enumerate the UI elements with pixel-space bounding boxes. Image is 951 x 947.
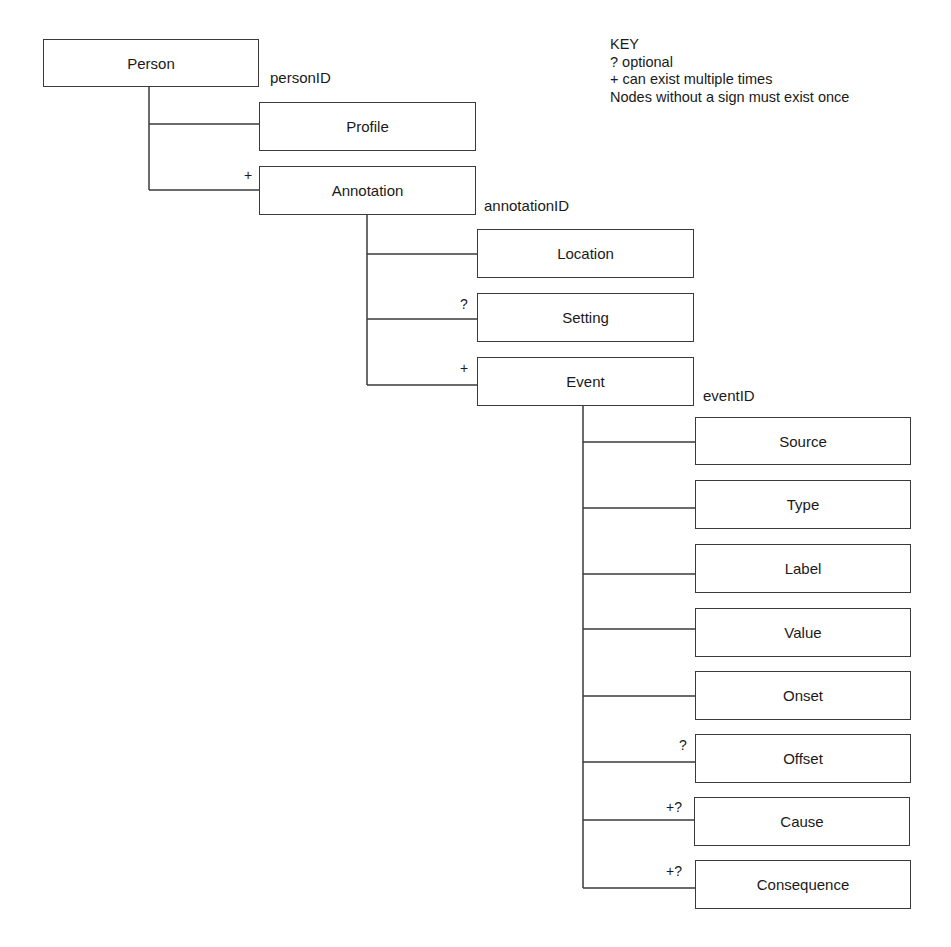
node-setting: Setting — [477, 293, 694, 342]
key-line-multiple: + can exist multiple times — [610, 71, 849, 89]
node-value: Value — [695, 608, 911, 657]
consequence-sign: +? — [666, 863, 682, 879]
node-label: Type — [787, 496, 820, 513]
node-annotation: Annotation — [259, 166, 476, 215]
annotation-sign: + — [244, 167, 252, 183]
node-label: Cause — [780, 813, 823, 830]
key-title: KEY — [610, 36, 849, 54]
node-label: Annotation — [332, 182, 404, 199]
node-person: Person — [43, 39, 259, 87]
node-profile: Profile — [259, 102, 476, 151]
node-label: Consequence — [757, 876, 850, 893]
node-label: Offset — [783, 750, 823, 767]
event-id-label: eventID — [703, 387, 755, 404]
cause-sign: +? — [666, 799, 682, 815]
key-line-optional: ? optional — [610, 54, 849, 72]
offset-sign: ? — [679, 737, 687, 753]
node-label: Profile — [346, 118, 389, 135]
node-label: Label — [785, 560, 822, 577]
node-label: Event — [566, 373, 604, 390]
node-label: Setting — [562, 309, 609, 326]
key-line-once: Nodes without a sign must exist once — [610, 89, 849, 107]
node-label: Onset — [783, 687, 823, 704]
legend-key: KEY ? optional + can exist multiple time… — [610, 36, 849, 106]
node-consequence: Consequence — [695, 860, 911, 909]
node-label: Source — [779, 433, 827, 450]
node-label: Person — [127, 55, 175, 72]
node-event: Event — [477, 357, 694, 406]
node-source: Source — [695, 417, 911, 465]
person-id-label: personID — [270, 69, 331, 86]
node-type: Type — [695, 480, 911, 529]
node-cause: Cause — [694, 797, 910, 846]
node-onset: Onset — [695, 671, 911, 720]
node-label: Location — [557, 245, 614, 262]
setting-sign: ? — [460, 296, 468, 312]
node-label-field: Label — [695, 544, 911, 593]
node-location: Location — [477, 229, 694, 278]
annotation-id-label: annotationID — [484, 197, 569, 214]
node-label: Value — [784, 624, 821, 641]
event-sign: + — [460, 360, 468, 376]
node-offset: Offset — [695, 734, 911, 783]
